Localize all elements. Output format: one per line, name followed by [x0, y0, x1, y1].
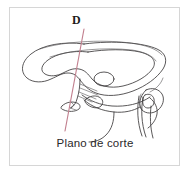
cerebellum-inner-leaf [143, 94, 154, 108]
fiber-line-1 [80, 84, 97, 91]
splenium-inferior-curve [150, 78, 163, 92]
corpus-callosum-outer-contour [22, 42, 165, 95]
figure-container: D Plano de corte [0, 0, 190, 174]
medulla-line-right [150, 106, 153, 138]
medulla-line-mid [142, 97, 146, 137]
thalamus-oval [94, 72, 114, 86]
figure-caption: Plano de corte [0, 137, 190, 149]
plane-label-d: D [72, 14, 81, 27]
cutting-plane-line [65, 29, 84, 131]
corpus-callosum-inner-contour [42, 50, 154, 87]
superior-callosal-line [50, 49, 156, 61]
